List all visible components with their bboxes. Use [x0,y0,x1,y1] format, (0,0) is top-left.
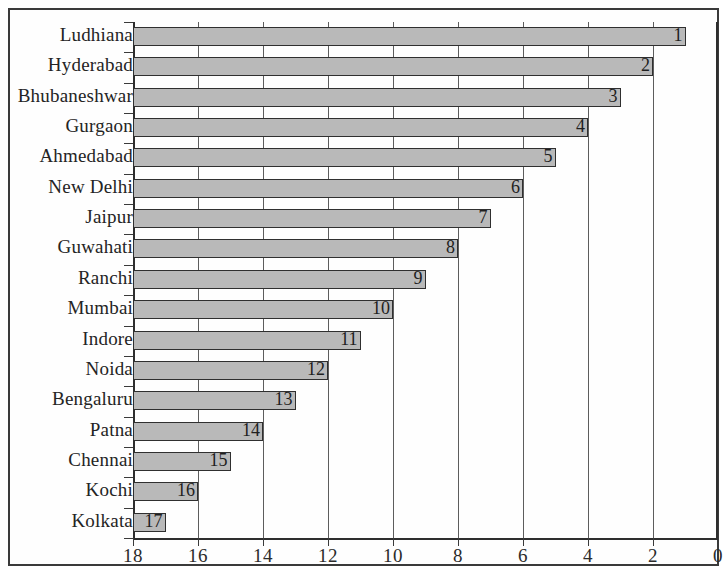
x-tick-label-2: 2 [633,545,673,567]
bar-row: 11 [133,326,718,355]
x-tick-label-4: 4 [568,545,608,567]
x-tick-label-8: 8 [438,545,478,567]
category-tick [124,508,133,509]
category-tick [124,417,133,418]
bar-row: 12 [133,356,718,385]
bar-value-label: 2 [610,55,650,76]
bar-chart: LudhianaHyderabadBhubaneshwarGurgaonAhme… [0,0,727,574]
bar-hyderabad[interactable] [133,57,653,76]
category-label-indore: Indore [9,328,133,350]
category-tick [124,386,133,387]
category-label-bengaluru: Bengaluru [9,388,133,410]
bar-row: 5 [133,143,718,172]
bar-value-label: 5 [513,146,553,167]
category-tick [124,174,133,175]
category-tick [124,52,133,53]
category-tick [124,326,133,327]
bar-value-label: 3 [578,86,618,107]
bar-ahmedabad[interactable] [133,148,556,167]
bar-value-label: 12 [285,359,325,380]
category-label-patna: Patna [9,419,133,441]
x-tick-label-14: 14 [243,545,283,567]
bar-row: 17 [133,508,718,537]
bar-value-label: 10 [350,298,390,319]
category-tick [124,477,133,478]
x-tick-label-6: 6 [503,545,543,567]
x-tick-label-12: 12 [308,545,348,567]
bar-row: 8 [133,234,718,263]
category-label-noida: Noida [9,358,133,380]
bar-bhubaneshwar[interactable] [133,88,621,107]
bar-row: 10 [133,295,718,324]
bar-row: 2 [133,52,718,81]
category-tick [124,538,133,539]
x-tick-label-0: 0 [698,545,727,567]
bar-row: 1 [133,22,718,51]
bar-value-label: 8 [415,237,455,258]
bar-row: 15 [133,447,718,476]
bar-jaipur[interactable] [133,209,491,228]
category-label-mumbai: Mumbai [9,297,133,319]
bar-value-label: 11 [318,329,358,350]
category-tick [124,143,133,144]
category-label-gurgaon: Gurgaon [9,115,133,137]
bar-guwahati[interactable] [133,239,458,258]
category-label-kochi: Kochi [9,479,133,501]
category-tick [124,356,133,357]
category-label-ranchi: Ranchi [9,267,133,289]
plot-area: 1234567891011121314151617 [133,22,718,538]
bar-value-label: 1 [643,25,683,46]
category-tick [124,113,133,114]
category-tick [124,447,133,448]
category-label-guwahati: Guwahati [9,236,133,258]
bar-value-label: 16 [155,480,195,501]
category-label-jaipur: Jaipur [9,206,133,228]
bar-value-label: 14 [220,420,260,441]
bar-row: 4 [133,113,718,142]
bar-row: 16 [133,477,718,506]
category-label-ahmedabad: Ahmedabad [9,145,133,167]
category-tick [124,265,133,266]
category-label-new-delhi: New Delhi [9,176,133,198]
bar-value-label: 9 [383,268,423,289]
bar-value-label: 4 [545,116,585,137]
x-tick-label-16: 16 [178,545,218,567]
category-tick [124,22,133,23]
bar-value-label: 17 [123,511,163,532]
category-tick [124,234,133,235]
bar-row: 13 [133,386,718,415]
category-axis: LudhianaHyderabadBhubaneshwarGurgaonAhme… [0,22,133,538]
category-label-chennai: Chennai [9,449,133,471]
bar-new-delhi[interactable] [133,179,523,198]
bar-row: 9 [133,265,718,294]
x-tick-label-18: 18 [113,545,153,567]
category-tick [124,295,133,296]
bar-ludhiana[interactable] [133,27,686,46]
bar-row: 7 [133,204,718,233]
bar-gurgaon[interactable] [133,118,588,137]
bar-value-label: 13 [253,389,293,410]
x-axis-line [133,538,719,540]
category-label-kolkata: Kolkata [9,510,133,532]
category-tick [124,83,133,84]
category-label-bhubaneshwar: Bhubaneshwar [9,85,133,107]
bar-row: 6 [133,174,718,203]
bar-value-label: 15 [188,450,228,471]
bar-value-label: 6 [480,177,520,198]
category-label-hyderabad: Hyderabad [9,54,133,76]
category-label-ludhiana: Ludhiana [9,24,133,46]
bar-row: 3 [133,83,718,112]
bar-value-label: 7 [448,207,488,228]
bar-row: 14 [133,417,718,446]
category-tick [124,204,133,205]
x-tick-label-10: 10 [373,545,413,567]
